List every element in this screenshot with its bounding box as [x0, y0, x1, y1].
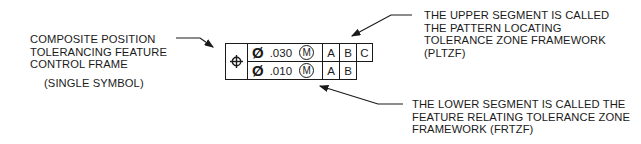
diameter-icon: Ø [252, 44, 264, 61]
position-symbol-cell [225, 43, 248, 80]
lower-tolerance-cell: Ø .010 M [247, 61, 323, 80]
lower-segment-label: THE LOWER SEGMENT IS CALLED THE FEATURE … [412, 98, 630, 136]
upper-datum-a: A [322, 43, 340, 62]
upper-leader-arrow [352, 15, 412, 36]
lower-tolerance-value: .010 [270, 65, 292, 77]
lower-datum-b: B [339, 61, 357, 80]
position-icon [230, 55, 243, 68]
upper-datum-c: C [356, 43, 373, 62]
upper-segment-label: THE UPPER SEGMENT IS CALLED THE PATTERN … [424, 9, 609, 59]
mmc-modifier-icon: M [299, 63, 314, 78]
diameter-icon: Ø [252, 62, 264, 79]
lower-datum-a: A [322, 61, 340, 80]
mmc-modifier-icon: M [299, 45, 314, 60]
lower-leader-arrow [320, 86, 403, 104]
upper-datum-b: B [339, 43, 357, 62]
left-leader-arrow [176, 38, 213, 47]
composite-fcf-label: COMPOSITE POSITION TOLERANCING FEATURE C… [30, 33, 167, 89]
upper-tolerance-cell: Ø .030 M [247, 43, 323, 62]
single-symbol-note: (SINGLE SYMBOL) [30, 77, 167, 90]
upper-tolerance-value: .030 [270, 47, 292, 59]
